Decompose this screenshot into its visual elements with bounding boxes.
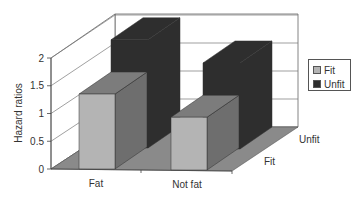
x-category-label: Fat [89,178,104,189]
legend-label: Unfit [324,79,345,90]
legend: Fit Unfit [308,59,351,91]
legend-swatch-fit [313,66,321,74]
legend-swatch-unfit [313,80,321,88]
y-tick-label: 1.5 [30,80,44,91]
legend-item-fit: Fit [313,63,350,77]
depth-label: Unfit [299,134,320,145]
y-tick-label: 1 [38,108,44,119]
y-tick-label: 0.5 [30,136,44,147]
y-tick-label: 0 [38,164,44,175]
depth-label: Fit [264,156,275,167]
legend-item-unfit: Unfit [313,77,350,91]
y-axis-title: Hazard ratios [13,83,24,142]
legend-label: Fit [324,65,335,76]
x-category-label: Not fat [172,179,202,190]
y-ticks: 00.511.52 [30,53,51,175]
hazard-ratio-chart: 00.511.52 Fat Not fat Fit Unfit Hazard r… [0,0,364,201]
y-tick-label: 2 [38,53,44,64]
